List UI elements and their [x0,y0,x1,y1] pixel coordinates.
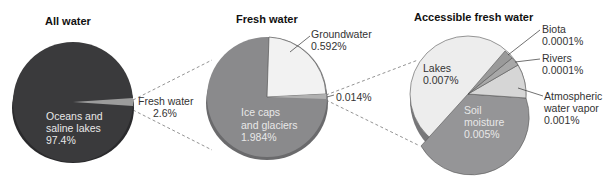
label-ice-line1: Ice caps [241,106,280,118]
label-atmospheric-line2: water vapor [543,102,599,114]
pie-accessible-fresh-water: Accessible fresh water Lakes 0.007% Soil… [410,11,602,175]
pie-title-accessible: Accessible fresh water [414,11,534,23]
label-groundwater: Groundwater [311,28,372,40]
label-biota-value: 0.0001% [542,35,583,47]
pie-all-water: All water Oceans and saline lakes 97.4% … [12,15,194,163]
pie-title-all-water: All water [45,15,92,27]
label-atmospheric-value: 0.001% [544,114,580,126]
label-soil-value: 0.005% [464,128,500,140]
label-oceans-line2: saline lakes [46,122,101,134]
label-biota: Biota [542,23,566,35]
label-groundwater-value: 0.592% [311,40,347,52]
pie-title-fresh-water: Fresh water [236,13,298,25]
label-soil-line2: moisture [464,116,504,128]
label-ice-line2: and glaciers [241,119,298,131]
label-rivers-value: 0.0001% [542,64,583,76]
label-soil-line1: Soil [464,104,482,116]
label-rivers: Rivers [542,52,572,64]
label-accessible-value: 0.014% [336,91,372,103]
label-fresh-water-value: 2.6% [153,107,177,119]
label-ice-value: 1.984% [241,131,277,143]
label-atmospheric-line1: Atmospheric [544,90,602,102]
label-lakes: Lakes [423,62,451,74]
label-oceans-value: 97.4% [46,134,76,146]
label-oceans-line1: Oceans and [46,110,103,122]
water-distribution-chart: All water Oceans and saline lakes 97.4% … [0,0,613,179]
label-fresh-water: Fresh water [138,95,194,107]
label-lakes-value: 0.007% [423,74,459,86]
